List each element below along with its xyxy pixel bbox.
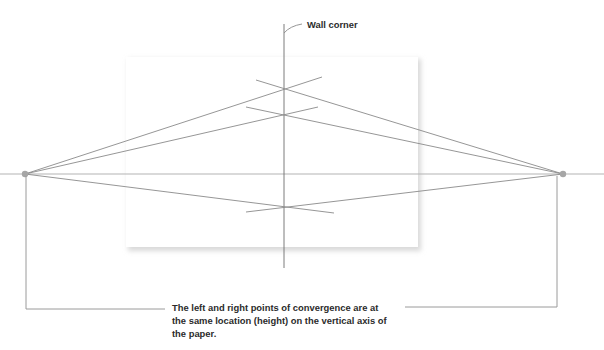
wall-corner-label: Wall corner — [307, 19, 358, 30]
left-vanishing-point — [22, 171, 28, 177]
wall-corner-leader — [284, 24, 302, 33]
paper-sheet — [126, 57, 418, 247]
perspective-diagram: Wall corner The left and right points of… — [0, 0, 604, 350]
right-vanishing-point — [560, 171, 566, 177]
right-bracket-line — [405, 176, 557, 307]
caption-line-2: the same location (height) on the vertic… — [172, 315, 388, 326]
caption-line-3: the paper. — [172, 328, 216, 339]
caption-line-1: The left and right points of convergence… — [172, 302, 378, 313]
